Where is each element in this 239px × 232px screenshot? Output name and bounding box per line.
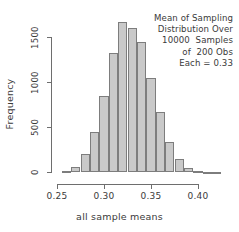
histogram-bar [203, 172, 212, 174]
histogram-bar [165, 142, 174, 172]
annotation-line-3: 10000 Samples [154, 35, 233, 46]
histogram-bar [156, 112, 165, 172]
annotation-line-1: Mean of Sampling [154, 13, 233, 24]
annotation-line-4: of 200 Obs [154, 47, 233, 58]
histogram-bar [184, 168, 193, 173]
histogram-bar [212, 172, 221, 174]
histogram-bar [137, 42, 146, 173]
annotation-line-5: Each = 0.33 [154, 58, 233, 69]
annotation-text-block: Mean of Sampling Distribution Over 10000… [154, 13, 233, 69]
annotation-line-2: Distribution Over [154, 24, 233, 35]
histogram-bar [118, 22, 127, 172]
histogram-bar [193, 171, 202, 173]
histogram-plot: 1500 1000 500 0 Frequency 0.25 0.30 0.35… [0, 0, 239, 232]
histogram-bar [99, 96, 108, 172]
histogram-bar [128, 28, 137, 172]
histogram-bar [71, 167, 80, 172]
histogram-bar [175, 159, 184, 172]
histogram-bar [146, 78, 155, 172]
histogram-bar [62, 171, 71, 173]
histogram-bar [90, 132, 99, 172]
histogram-bar [109, 53, 118, 172]
histogram-bar [81, 154, 90, 172]
